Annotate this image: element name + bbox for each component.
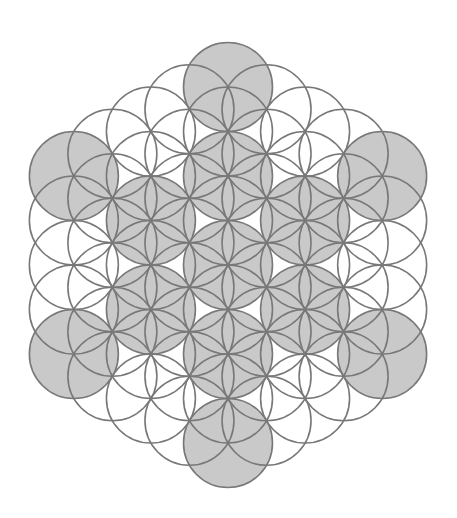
flower-of-life-diagram <box>0 0 457 518</box>
